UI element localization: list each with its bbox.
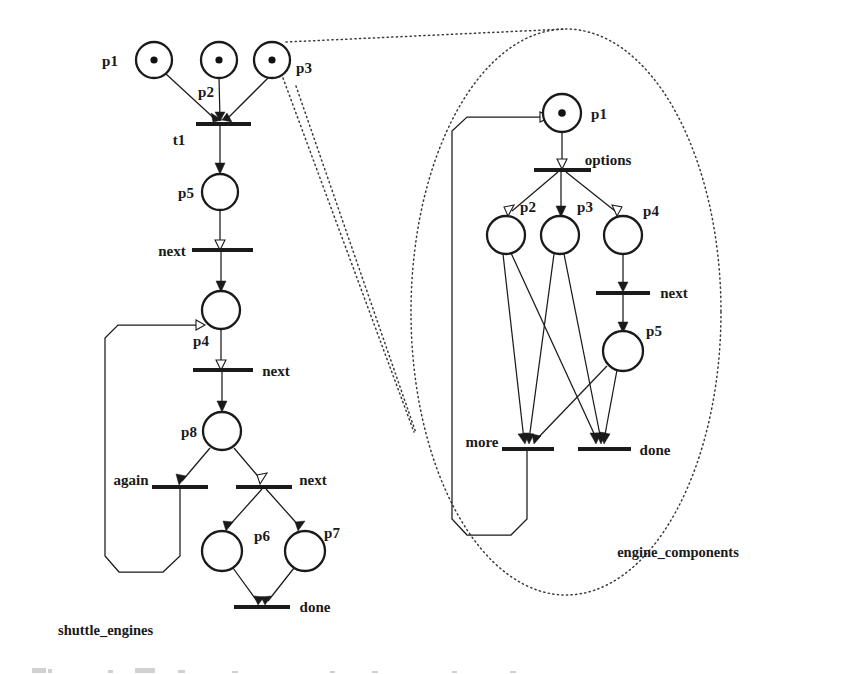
caption-glyph-8 (372, 671, 378, 673)
place-label-p1: p1 (102, 53, 118, 69)
arc-again-loop-to-p4 (105, 325, 198, 572)
refinement-region (283, 29, 721, 595)
arc-r-p2-done (511, 253, 597, 440)
token-p1 (150, 56, 157, 63)
arrowhead-next3-p6 (223, 521, 233, 531)
arrowhead-next2-p8 (217, 401, 227, 412)
arc-r-p2-more (503, 254, 524, 440)
zoom-line-lower (283, 78, 414, 432)
module-label-shuttle-engines: shuttle_engines (58, 622, 153, 638)
place-label-p5: p5 (178, 185, 194, 201)
arrowhead-again-p4 (196, 320, 205, 330)
arrowhead-next3-p7 (295, 521, 305, 531)
transition-label-next-2: next (262, 363, 290, 379)
zoom-line-upper (286, 29, 566, 42)
arc-r-p3-more (529, 254, 554, 440)
place-p5 (202, 174, 238, 210)
arc-r-p3-done (564, 254, 601, 440)
place-label-p3: p3 (296, 60, 312, 76)
transition-label-next-3: next (299, 472, 327, 488)
arrowhead-t1-p5 (215, 163, 225, 174)
caption-glyph-6 (232, 671, 238, 673)
place-label-r-p3: p3 (577, 199, 593, 215)
transition-label-done: done (300, 599, 331, 615)
place-label-p2: p2 (198, 84, 214, 100)
caption-glyph-2 (48, 669, 52, 673)
arc-next3-p7 (266, 489, 300, 527)
place-r-p4 (604, 216, 642, 254)
caption-glyph-3 (108, 670, 113, 673)
place-label-p8: p8 (181, 424, 197, 440)
place-p6 (202, 531, 242, 571)
arrowhead-r-p4-next (618, 282, 628, 292)
zoom-line-lower-2 (296, 86, 416, 433)
token-r-p1 (558, 109, 566, 117)
arrowhead-r-p5-more (532, 434, 541, 444)
place-r-p5 (603, 331, 643, 371)
arc-next3-p6 (228, 489, 262, 527)
arc-r-p5-more (535, 366, 607, 441)
token-p2 (215, 56, 222, 63)
transition-label-r-done: done (640, 442, 671, 458)
place-label-r-p4: p4 (643, 203, 659, 219)
arrowhead-p7-done (261, 596, 271, 605)
place-label-r-p2: p2 (520, 199, 536, 215)
token-p3 (268, 56, 275, 63)
arrowhead-p8-next3 (257, 473, 267, 484)
arc-r-p5-done (604, 370, 617, 440)
caption-remnant (32, 668, 516, 673)
figure-root: p1 p2 p3 t1 p5 next (0, 0, 841, 674)
arc-p6-done (233, 568, 257, 601)
transition-label-t1: t1 (173, 132, 186, 148)
place-label-r-p1: p1 (591, 106, 607, 122)
place-label-p4: p4 (193, 333, 209, 349)
transition-label-more: more (465, 434, 498, 450)
place-label-r-p5: p5 (646, 323, 662, 339)
place-r-p2 (487, 216, 525, 254)
caption-glyph-1 (32, 668, 46, 673)
left-net-shuttle-engines: p1 p2 p3 t1 p5 next (58, 42, 340, 638)
caption-glyph-9 (452, 671, 457, 673)
transition-label-r-next: next (660, 285, 688, 301)
arc-more-loop-to-p1 (452, 117, 542, 535)
arc-p3-t1 (226, 74, 272, 120)
place-p8 (203, 412, 241, 450)
arrowhead-p8-again (176, 474, 186, 485)
petri-net-diagram: p1 p2 p3 t1 p5 next (0, 0, 841, 674)
caption-glyph-5 (178, 670, 185, 673)
place-p4 (202, 291, 240, 329)
caption-glyph-4 (135, 668, 155, 673)
caption-glyph-7 (330, 671, 335, 673)
arrowhead-r-p1-options (557, 159, 567, 169)
place-p7 (285, 531, 325, 571)
right-net-engine-components: p1 options p2 p3 p4 nex (452, 94, 739, 560)
transition-label-next-1: next (158, 243, 186, 259)
caption-glyph-10 (510, 671, 516, 673)
transition-label-again: again (113, 472, 149, 488)
arc-p7-done (268, 568, 294, 601)
place-label-p6: p6 (254, 528, 270, 544)
module-label-engine-components: engine_components (617, 544, 739, 560)
place-label-p7: p7 (324, 525, 340, 541)
place-r-p3 (541, 216, 579, 254)
transition-label-options: options (585, 152, 632, 168)
